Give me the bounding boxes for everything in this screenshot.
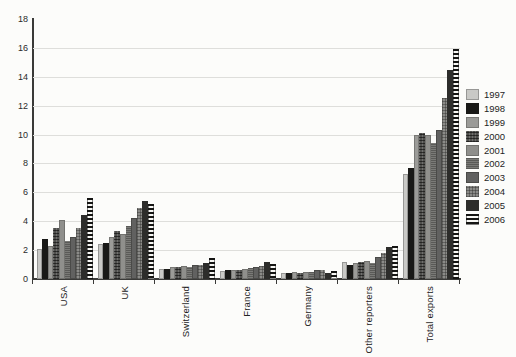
x-tick-1 [93,280,94,284]
legend-swatch-2002 [466,158,479,169]
gridline-14 [33,77,460,78]
legend-item-2004: 2004 [466,185,505,199]
legend-label-1997: 1997 [484,89,505,100]
x-tick-7 [459,280,460,284]
legend-swatch-1997 [466,89,479,100]
category-label-germany: Germany [302,286,313,326]
legend-item-2003: 2003 [466,171,505,185]
y-tick-label-14: 14 [2,72,28,82]
x-tick-3 [215,280,216,284]
legend-label-2001: 2001 [484,145,505,156]
category-label-total-exports: Total exports [424,286,435,342]
bar-uk-2006 [148,204,154,279]
legend-label-2005: 2005 [484,200,505,211]
legend-item-2002: 2002 [466,157,505,171]
category-label-switzerland: Switzerland [180,286,191,337]
bar-germany-2006 [331,271,337,279]
legend-label-1999: 1999 [484,117,505,128]
x-tick-4 [276,280,277,284]
gridline-6 [33,192,460,193]
legend-item-1999: 1999 [466,116,505,130]
legend-label-2004: 2004 [484,186,505,197]
x-tick-5 [337,280,338,284]
legend-item-1998: 1998 [466,102,505,116]
legend-swatch-2006 [466,214,479,225]
x-tick-6 [398,280,399,284]
gridline-12 [33,106,460,107]
y-tick-label-6: 6 [2,187,28,197]
legend-item-2001: 2001 [466,143,505,157]
y-tick-label-2: 2 [2,245,28,255]
legend: 1997199819992000200120022003200420052006 [466,88,505,226]
legend-swatch-2003 [466,172,479,183]
y-tick-label-8: 8 [2,158,28,168]
y-tick-label-12: 12 [2,101,28,111]
gridline-8 [33,163,460,164]
y-tick-label-16: 16 [2,43,28,53]
legend-label-1998: 1998 [484,103,505,114]
bar-switzerland-2006 [209,258,215,279]
legend-swatch-2000 [466,131,479,142]
y-tick-label-10: 10 [2,130,28,140]
legend-item-1997: 1997 [466,88,505,102]
category-label-other-reporters: Other reporters [363,286,374,353]
legend-label-2003: 2003 [484,172,505,183]
legend-swatch-2004 [466,186,479,197]
gridline-10 [33,135,460,136]
legend-label-2000: 2000 [484,131,505,142]
legend-swatch-2005 [466,200,479,211]
legend-swatch-2001 [466,145,479,156]
gridline-4 [33,221,460,222]
category-label-usa: USA [58,286,69,306]
category-label-uk: UK [119,286,130,300]
bar-usa-2006 [87,198,93,279]
legend-label-2002: 2002 [484,158,505,169]
bar-other-reporters-2006 [392,246,398,279]
legend-label-2006: 2006 [484,214,505,225]
plot-area [33,19,460,279]
legend-item-2006: 2006 [466,212,505,226]
x-tick-2 [154,280,155,284]
y-tick-label-0: 0 [2,274,28,284]
bar-chart: 024681012141618 USAUKSwitzerlandFranceGe… [0,0,516,357]
legend-item-2000: 2000 [466,129,505,143]
gridline-16 [33,48,460,49]
category-label-france: France [241,286,252,317]
legend-swatch-1999 [466,117,479,128]
legend-swatch-1998 [466,103,479,114]
x-tick-0 [32,280,33,284]
y-tick-label-4: 4 [2,216,28,226]
bar-france-2006 [270,264,276,279]
bar-total-exports-2006 [453,49,459,279]
legend-item-2005: 2005 [466,198,505,212]
y-tick-label-18: 18 [2,14,28,24]
